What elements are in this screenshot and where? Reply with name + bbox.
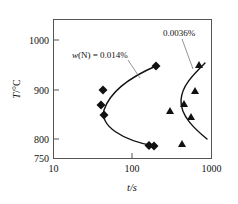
data-point-triangle <box>187 113 195 120</box>
x-tick-label-1000: 1000 <box>202 163 222 174</box>
chart-figure: 1000 900 800 750 10 100 1000 t/s T/°C <box>0 0 238 204</box>
y-axis-title: T/°C <box>11 79 22 99</box>
y-tick-label-800: 800 <box>34 134 49 145</box>
data-point-diamond <box>152 62 161 71</box>
data-point-triangle <box>166 107 174 114</box>
svg-text:T/°C: T/°C <box>11 79 22 99</box>
plot-frame <box>54 20 212 159</box>
annotation-0014-text: (N) = 0.014% <box>78 50 128 60</box>
x-tick-label-100: 100 <box>125 163 140 174</box>
curve-series-00036 <box>181 63 207 139</box>
y-tick-label-900: 900 <box>34 85 49 96</box>
x-axis-title-text: t/s <box>127 182 137 193</box>
svg-text:w(N) = 0.014%: w(N) = 0.014% <box>72 50 128 60</box>
annotation-0014-leader <box>128 60 140 78</box>
curve-series-0014 <box>104 66 156 146</box>
annotation-00036-leader <box>182 39 193 69</box>
y-tick-label-1000: 1000 <box>29 35 49 46</box>
data-point-triangle <box>178 140 186 147</box>
annotation-series-0014: w(N) = 0.014% <box>72 50 140 78</box>
data-point-triangle <box>191 87 199 94</box>
y-tick-label-750: 750 <box>34 153 49 164</box>
x-axis-title: t/s <box>127 182 137 193</box>
y-axis-title-unit: /°C <box>11 79 22 93</box>
data-point-diamond <box>100 111 109 120</box>
x-tick-label-10: 10 <box>49 163 59 174</box>
series-00036-markers <box>166 61 203 147</box>
data-point-diamond <box>99 86 108 95</box>
annotation-00036-text: 0.0036% <box>163 28 196 38</box>
annotation-series-00036: 0.0036% <box>163 28 196 69</box>
data-point-triangle <box>195 61 203 68</box>
chart-svg: 1000 900 800 750 10 100 1000 t/s T/°C <box>0 0 238 204</box>
